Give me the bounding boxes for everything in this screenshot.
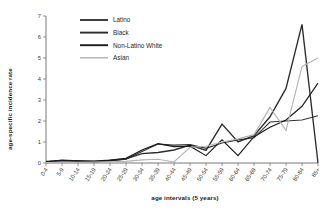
line-chart-svg: age-specific incidence rate age interval…	[0, 0, 332, 221]
axis-lines	[46, 16, 318, 163]
y-tick-label: 7	[38, 13, 41, 19]
legend-label-asian: Asian	[113, 54, 129, 61]
chart-legend: LatinoBlackNon-Latino WhiteAsian	[80, 16, 163, 61]
legend-label-non-latino-white: Non-Latino White	[113, 42, 163, 49]
x-tick-label: 0-4	[39, 166, 49, 177]
y-tick-labels: 01234567	[38, 13, 46, 166]
x-tick-label: 5-9	[55, 167, 65, 177]
x-tick-label: 55-59	[212, 167, 225, 183]
series-line-non-latino-white	[46, 83, 318, 162]
chart-figure: age-specific incidence rate age interval…	[0, 0, 332, 221]
x-tick-label: 70-74	[260, 166, 274, 182]
x-tick-label: 50-54	[196, 166, 210, 182]
x-axis-title: age intervals (5 years)	[151, 194, 218, 201]
x-tick-label: 20-24	[100, 166, 114, 182]
y-tick-label: 3	[38, 97, 41, 103]
x-tick-label: 60-64	[228, 166, 242, 182]
x-tick-labels: 0-45-910-1415-1920-2425-2930-3435-3940-4…	[39, 163, 321, 182]
x-tick-label: 10-14	[68, 166, 82, 182]
y-tick-label: 5	[38, 55, 41, 61]
x-tick-label: 45-49	[180, 167, 193, 183]
x-tick-label: 80-84	[292, 166, 306, 182]
y-tick-label: 1	[38, 139, 41, 145]
x-tick-label: 40-44	[164, 166, 178, 182]
x-tick-label: 65-69	[244, 167, 257, 183]
x-tick-label: 85+	[310, 166, 321, 178]
axes-group	[46, 16, 318, 163]
legend-label-latino: Latino	[113, 16, 131, 23]
x-tick-label: 75-79	[276, 167, 289, 183]
x-tick-label: 35-39	[148, 167, 161, 183]
y-tick-label: 6	[38, 34, 41, 40]
y-tick-label: 4	[38, 76, 42, 82]
y-axis-title: age-specific incidence rate	[6, 68, 13, 150]
x-axis-title-group: age intervals (5 years)	[151, 194, 218, 201]
y-tick-label: 2	[38, 118, 41, 124]
y-tick-label: 0	[38, 160, 41, 166]
y-axis-title-group: age-specific incidence rate	[6, 68, 13, 150]
x-tick-label: 25-29	[116, 167, 129, 183]
x-tick-label: 15-19	[84, 167, 97, 183]
legend-label-black: Black	[113, 29, 129, 36]
x-tick-label: 30-34	[132, 166, 146, 182]
